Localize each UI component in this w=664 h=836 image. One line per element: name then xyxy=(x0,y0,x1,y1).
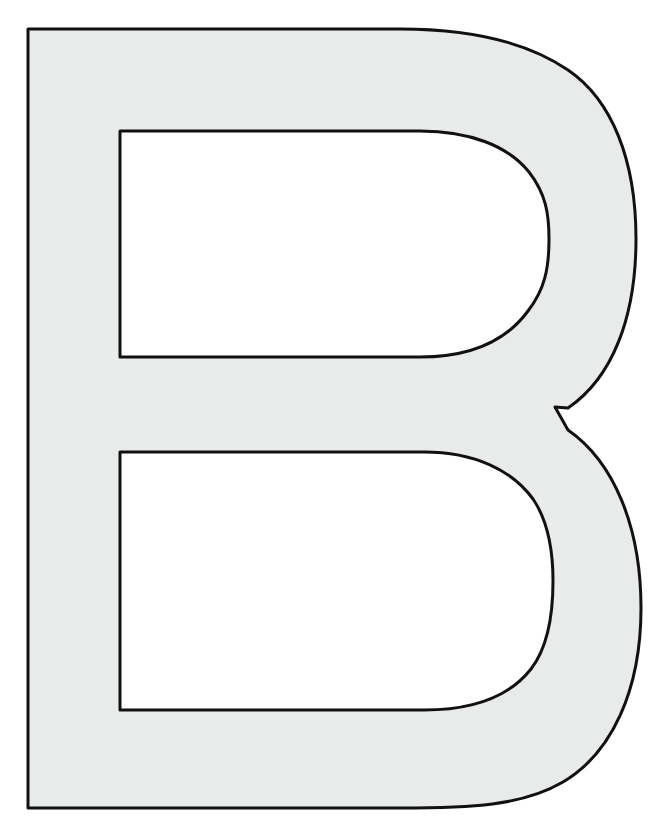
letter-b-lower-counter xyxy=(120,452,553,710)
letter-b-upper-counter xyxy=(120,131,549,357)
canvas-root: Large uppercase letter B outline templat… xyxy=(0,0,664,836)
letter-b-artwork: Large uppercase letter B outline templat… xyxy=(0,0,664,836)
